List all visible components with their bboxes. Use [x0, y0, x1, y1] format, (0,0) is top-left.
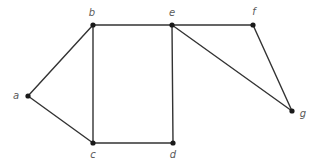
graph-node-b — [90, 22, 95, 27]
graph-node-e — [169, 22, 174, 27]
graph-canvas: abcdefg — [0, 0, 319, 164]
graph-diagram-container: abcdefg — [0, 0, 319, 164]
graph-node-a — [25, 93, 30, 98]
graph-node-f — [250, 22, 255, 27]
graph-node-g — [289, 108, 294, 113]
graph-edge-d-e — [172, 25, 173, 143]
graph-edges-group — [28, 25, 292, 143]
graph-node-label-e: e — [169, 7, 175, 18]
graph-edge-e-g — [172, 25, 292, 111]
graph-node-label-f: f — [252, 6, 257, 17]
graph-edge-a-b — [28, 25, 93, 96]
graph-node-d — [170, 140, 175, 145]
graph-labels-group: abcdefg — [13, 6, 306, 160]
graph-node-label-a: a — [13, 90, 19, 101]
graph-node-label-c: c — [90, 149, 96, 160]
graph-edge-a-c — [28, 96, 93, 143]
graph-node-c — [90, 140, 95, 145]
graph-node-label-g: g — [300, 108, 306, 119]
graph-node-label-d: d — [170, 149, 177, 160]
graph-edge-f-g — [253, 25, 292, 111]
graph-node-label-b: b — [89, 7, 95, 18]
